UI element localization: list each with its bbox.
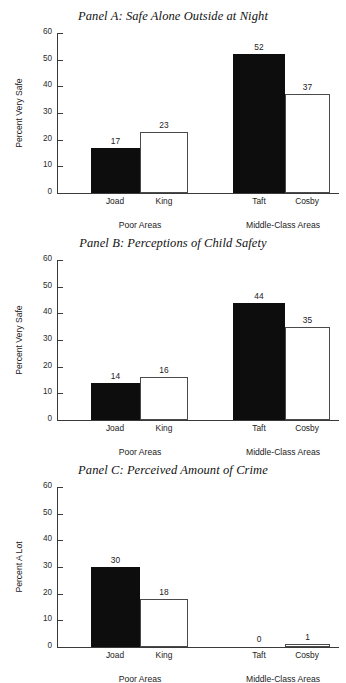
panel-a-y-axis-label: Percent Very Safe [12,33,26,193]
panel-a-ytick-50: 50 [58,60,63,61]
panel-a-ytick-40: 40 [58,86,63,87]
panel-a-bar-joad: 17 [91,148,140,193]
panel-c-group-middleclass: Middle-Class Areas [246,674,320,683]
panel-c-xlabel-joad: Joad [106,650,124,660]
panel-b: Panel B: Perceptions of Child Safety Per… [0,227,346,454]
panel-a-bar-king: 23 [140,132,188,193]
panel-b-ytick-10: 10 [58,393,63,394]
panel-b-ytick-40: 40 [58,313,63,314]
panel-c-ytick-10: 10 [58,620,63,621]
panel-c-x-axis-line [57,647,339,648]
panel-c-bar-joad: 30 [91,567,140,647]
panel-a-bar-taft: 52 [233,54,285,193]
panel-b-ytick-60: 60 [58,260,63,261]
panel-c-title: Panel C: Perceived Amount of Crime [0,463,346,478]
panel-c-xlabel-taft: Taft [252,650,266,660]
panel-c: Panel C: Perceived Amount of Crime Perce… [0,454,346,681]
panel-c-xlabel-king: King [156,650,173,660]
panel-b-plot-area: 60 50 40 30 20 10 0 14 16 44 35 Joad Kin… [57,260,339,420]
panel-a: Panel A: Safe Alone Outside at Night Per… [0,0,346,227]
panel-a-xlabel-taft: Taft [252,196,266,206]
panel-a-ytick-10: 10 [58,166,63,167]
panel-c-ytick-20: 20 [58,594,63,595]
panel-c-ytick-0: 0 [58,647,63,648]
panel-c-plot-area: 60 50 40 30 20 10 0 30 18 0 1 Joad King … [57,487,339,647]
panel-b-xlabel-joad: Joad [106,423,124,433]
panel-b-ytick-0: 0 [58,420,63,421]
panel-b-x-axis-line [57,420,339,421]
panel-a-plot-area: 60 50 40 30 20 10 0 17 23 52 37 Joad Kin… [57,33,339,193]
panel-c-bar-king: 18 [140,599,188,647]
panel-b-ytick-30: 30 [58,340,63,341]
panel-b-bar-taft: 44 [233,303,285,420]
panel-a-ytick-60: 60 [58,33,63,34]
panel-a-ytick-0: 0 [58,193,63,194]
panel-c-ytick-40: 40 [58,540,63,541]
panel-a-ytick-20: 20 [58,140,63,141]
panel-b-xlabel-taft: Taft [252,423,266,433]
panel-c-ytick-50: 50 [58,514,63,515]
panel-c-bar-cosby: 1 [285,644,330,647]
panel-c-ytick-30: 30 [58,567,63,568]
panel-c-group-poor: Poor Areas [119,674,162,683]
panel-a-title: Panel A: Safe Alone Outside at Night [0,9,346,24]
panel-c-ytick-60: 60 [58,487,63,488]
panel-b-bar-joad: 14 [91,383,140,420]
panel-b-ytick-50: 50 [58,287,63,288]
panel-b-xlabel-king: King [156,423,173,433]
panel-b-xlabel-cosby: Cosby [295,423,319,433]
panel-a-bar-cosby: 37 [285,94,330,193]
panel-a-xlabel-king: King [156,196,173,206]
panel-b-y-axis-label: Percent Very Safe [12,260,26,420]
panel-b-bar-king: 16 [140,377,188,420]
panel-a-x-axis-line [57,193,339,194]
panel-c-y-axis-label: Percent A Lot [12,487,26,647]
panel-b-bar-cosby: 35 [285,327,330,420]
panel-a-xlabel-joad: Joad [106,196,124,206]
panel-c-xlabel-cosby: Cosby [295,650,319,660]
panel-a-xlabel-cosby: Cosby [295,196,319,206]
panel-b-title: Panel B: Perceptions of Child Safety [0,236,346,251]
three-panel-bar-chart-figure: Panel A: Safe Alone Outside at Night Per… [0,0,346,683]
panel-b-ytick-20: 20 [58,367,63,368]
panel-a-ytick-30: 30 [58,113,63,114]
